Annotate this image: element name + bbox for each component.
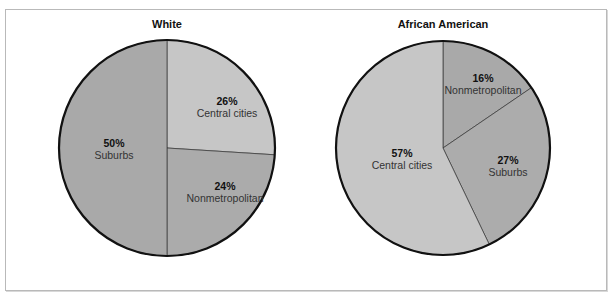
aa-central-pct: 57% [347,147,457,159]
aa-suburbs-label: 27% Suburbs [453,154,563,178]
white-central-text: Central cities [197,107,258,119]
aa-nonmetro-label: 16% Nonmetropolitan [428,72,538,96]
white-nonmetro-text: Nonmetropolitan [186,192,263,204]
aa-nonmetro-pct: 16% [428,72,538,84]
aa-central-label: 57% Central cities [347,147,457,171]
aa-nonmetro-text: Nonmetropolitan [444,84,521,96]
white-central-pct: 26% [172,95,282,107]
white-suburbs-pct: 50% [59,137,169,149]
white-nonmetro-pct: 24% [170,180,280,192]
white-suburbs-label: 50% Suburbs [59,137,169,161]
white-central-label: 26% Central cities [172,95,282,119]
white-nonmetro-label: 24% Nonmetropolitan [170,180,280,204]
aa-central-text: Central cities [372,159,433,171]
white-suburbs-text: Suburbs [94,149,133,161]
aa-suburbs-pct: 27% [453,154,563,166]
aa-suburbs-text: Suburbs [488,166,527,178]
